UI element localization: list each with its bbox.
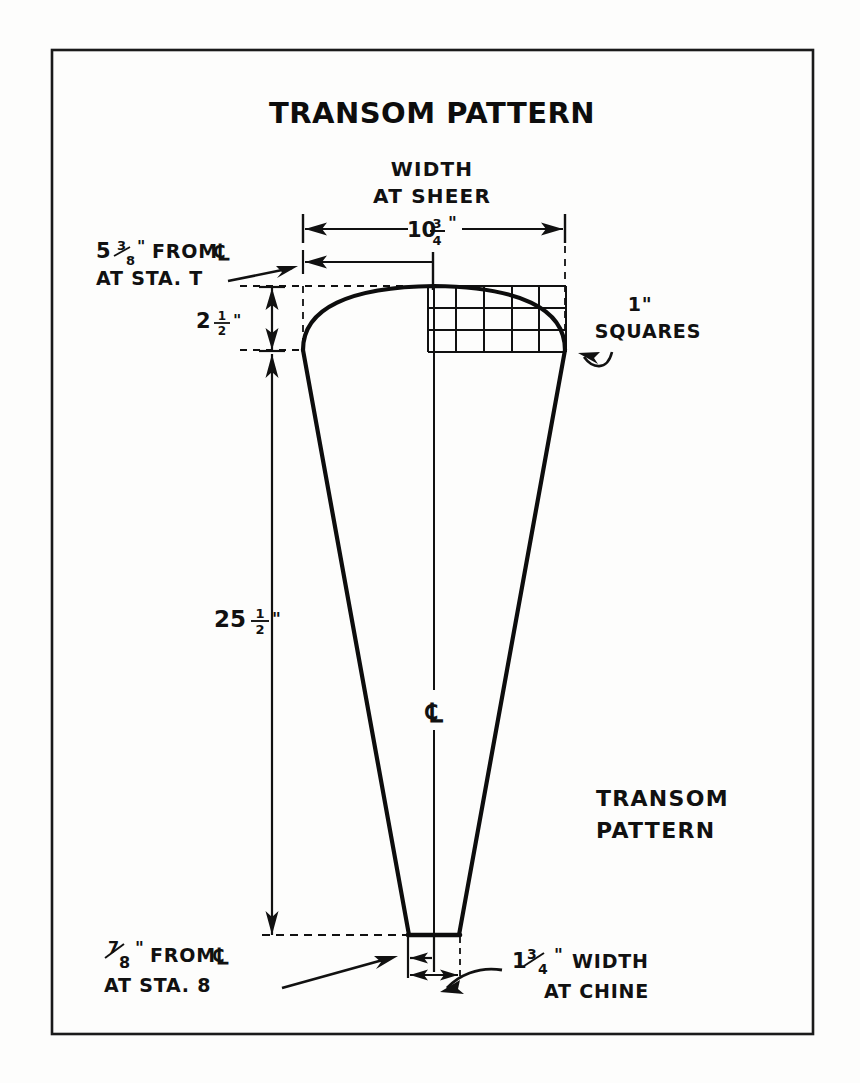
sta-t-callout: 5 3 8 " FROM ℄ AT STA. T	[96, 237, 298, 289]
svg-text:PATTERN: PATTERN	[596, 818, 715, 843]
chine-width-callout: 1 3 4 " WIDTH AT CHINE	[410, 945, 649, 1002]
svg-text:2: 2	[255, 622, 264, 637]
svg-text:2: 2	[218, 324, 226, 338]
sta-t-whole: 5	[96, 239, 111, 263]
drawing-sheet: TRANSOM PATTERN WIDTH AT SHEER 1	[0, 0, 860, 1083]
page-title: TRANSOM PATTERN	[269, 96, 595, 130]
sta-t-line2: AT STA. T	[96, 267, 203, 289]
svg-text:℄: ℄	[425, 698, 444, 728]
svg-text:℄: ℄	[214, 239, 230, 265]
chine-width-line1-tail: WIDTH	[572, 950, 649, 972]
squares-line2: SQUARES	[595, 320, 701, 342]
squares-line1: 1"	[628, 293, 653, 315]
svg-text:AT SHEER: AT SHEER	[373, 184, 491, 208]
svg-text:WIDTH: WIDTH	[572, 950, 649, 972]
svg-text:AT CHINE: AT CHINE	[544, 980, 649, 1002]
sheer-drop-unit: "	[233, 311, 241, 330]
sheer-drop-denominator: 2	[218, 324, 226, 338]
transom-pattern-handlabel: TRANSOM PATTERN	[596, 786, 729, 843]
sta-t-denominator: 8	[126, 253, 135, 268]
height-unit: "	[272, 609, 281, 629]
sheer-width-unit: "	[448, 213, 457, 233]
svg-text:": "	[137, 237, 145, 256]
width-at-sheer-label: WIDTH AT SHEER	[373, 157, 491, 208]
sta-t-offset-dimension	[303, 250, 433, 290]
svg-text:2: 2	[196, 309, 211, 333]
sta-8-denominator: 8	[119, 953, 130, 972]
handlabel-line2: PATTERN	[596, 818, 715, 843]
svg-text:1": 1"	[628, 293, 653, 315]
svg-text:4: 4	[538, 961, 548, 977]
construction-lines-bottom	[262, 935, 460, 978]
sta-8-line2: AT STA. 8	[104, 974, 211, 996]
squares-callout: 1" SQUARES	[578, 293, 701, 366]
chine-width-unit: "	[554, 945, 563, 965]
svg-text:8: 8	[126, 253, 135, 268]
svg-text:1: 1	[512, 949, 527, 973]
sheer-drop-numerator: 1	[218, 309, 226, 323]
sheer-drop-dimension: 2 1 2 "	[196, 287, 285, 351]
svg-text:TRANSOM: TRANSOM	[596, 786, 729, 811]
width-at-sheer-line2: AT SHEER	[373, 184, 491, 208]
svg-text:": "	[554, 945, 563, 965]
svg-text:3: 3	[432, 216, 441, 231]
svg-text:℄: ℄	[213, 943, 229, 969]
svg-text:5: 5	[96, 239, 111, 263]
height-whole: 25	[214, 606, 246, 632]
chine-width-denominator: 4	[538, 961, 548, 977]
chine-width-line2: AT CHINE	[544, 980, 649, 1002]
sheer-width-numerator: 3	[432, 216, 441, 231]
chine-width-whole: 1	[512, 949, 527, 973]
svg-text:": "	[448, 213, 457, 233]
svg-text:FROM: FROM	[150, 944, 216, 966]
svg-text:": "	[272, 609, 281, 629]
svg-text:8: 8	[119, 953, 130, 972]
centerline-symbol-axis: ℄	[425, 698, 444, 728]
transom-height-dimension: 25 1 2 "	[214, 354, 281, 935]
sta-t-from-text: FROM	[152, 240, 218, 262]
centerline-axis: ℄	[425, 286, 444, 935]
transom-pattern-drawing: TRANSOM PATTERN WIDTH AT SHEER 1	[0, 0, 860, 1083]
one-inch-squares-grid	[428, 286, 566, 352]
svg-text:1: 1	[218, 309, 226, 323]
svg-text:": "	[135, 938, 144, 958]
sta-8-from-text: FROM	[150, 944, 216, 966]
height-numerator: 1	[255, 606, 264, 621]
svg-text:1: 1	[255, 606, 264, 621]
sheer-width-denominator: 4	[432, 233, 441, 248]
sta-8-callout: 7 8 " FROM ℄ AT STA. 8	[104, 938, 432, 996]
svg-text:FROM: FROM	[152, 240, 218, 262]
svg-text:AT STA. T: AT STA. T	[96, 267, 203, 289]
page-title-text: TRANSOM PATTERN	[269, 96, 595, 130]
svg-text:": "	[233, 311, 241, 330]
sheer-drop-whole: 2	[196, 309, 211, 333]
sta-8-unit: "	[135, 938, 144, 958]
sheer-width-dimension: 10 3 4 "	[303, 213, 565, 248]
svg-text:25: 25	[214, 606, 246, 632]
width-at-sheer-line1: WIDTH	[391, 157, 473, 181]
height-denominator: 2	[255, 622, 264, 637]
svg-text:4: 4	[432, 233, 441, 248]
handlabel-line1: TRANSOM	[596, 786, 729, 811]
centerline-symbol-sta-8: ℄	[213, 943, 229, 969]
svg-text:WIDTH: WIDTH	[391, 157, 473, 181]
svg-text:AT STA. 8: AT STA. 8	[104, 974, 211, 996]
sta-t-unit: "	[137, 237, 145, 256]
centerline-symbol-sta-t: ℄	[214, 239, 230, 265]
svg-text:SQUARES: SQUARES	[595, 320, 701, 342]
